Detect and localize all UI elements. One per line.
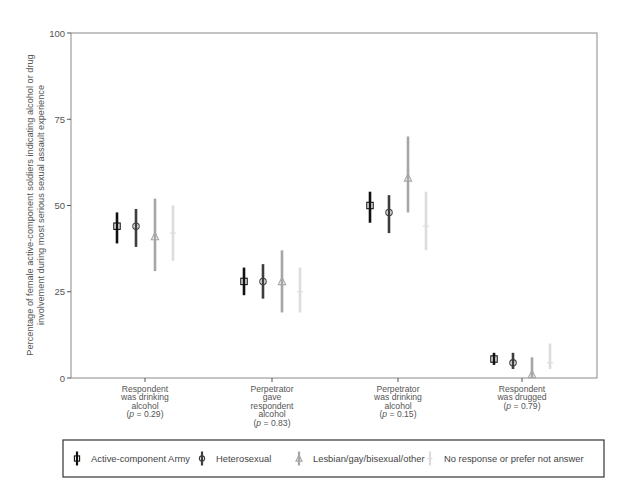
data-point	[528, 357, 535, 378]
y-tick-label: 75	[54, 114, 65, 125]
x-axis: Respondentwas drinkingalcohol(p = 0.29)P…	[120, 378, 547, 428]
legend-label: Active-component Army	[91, 453, 190, 464]
data-point	[278, 250, 285, 312]
data-point	[114, 212, 120, 243]
legend-items: Active-component ArmyHeterosexualLesbian…	[74, 452, 583, 466]
data-point	[133, 209, 139, 247]
data-point	[367, 192, 373, 223]
series-0	[114, 192, 497, 365]
y-tick-label: 50	[54, 200, 65, 211]
y-tick-label: 0	[60, 373, 65, 384]
data-point	[404, 137, 411, 213]
legend-item: Lesbian/gay/bisexual/other	[296, 452, 425, 466]
data-point	[241, 268, 247, 296]
series-layer	[114, 137, 553, 379]
x-category-label-line: (p = 0.79)	[503, 401, 540, 411]
x-category-label-line: (p = 0.15)	[379, 409, 416, 419]
x-category-label-line: (p = 0.29)	[126, 409, 163, 419]
legend-label: Heterosexual	[216, 453, 271, 464]
x-category-label: Perpetratorwas drinkingalcohol(p = 0.15)	[373, 384, 422, 419]
legend-label: No response or prefer not answer	[444, 453, 584, 464]
y-axis-title-line-1: Percentage of female active-component so…	[25, 54, 35, 355]
plot-area	[71, 33, 597, 378]
y-tick-label: 100	[49, 28, 65, 39]
series-1	[133, 195, 516, 369]
x-category-label: Perpetratorgaverespondentalcohol(p = 0.8…	[250, 384, 294, 428]
y-tick-label: 25	[54, 286, 65, 297]
chart: Percentage of female active-component so…	[0, 0, 629, 502]
data-point	[151, 199, 158, 271]
data-point	[260, 264, 266, 299]
data-point	[423, 192, 429, 251]
data-point	[510, 353, 516, 369]
legend-label: Lesbian/gay/bisexual/other	[313, 453, 425, 464]
x-category-label: Respondentwas drugged(p = 0.79)	[496, 384, 546, 411]
legend-item: No response or prefer not answer	[427, 452, 583, 466]
y-axis: 0255075100	[49, 28, 71, 384]
data-point	[297, 268, 303, 313]
data-point	[547, 344, 553, 370]
legend-item: Active-component Army	[74, 452, 190, 466]
data-point	[491, 353, 497, 365]
chart-svg: Percentage of female active-component so…	[0, 0, 629, 502]
data-point	[170, 206, 176, 261]
y-axis-title: Percentage of female active-component so…	[25, 54, 46, 355]
series-2	[151, 137, 535, 379]
data-point	[386, 195, 392, 233]
x-category-label: Respondentwas drinkingalcohol(p = 0.29)	[120, 384, 169, 419]
series-3	[170, 192, 553, 369]
legend: Active-component ArmyHeterosexualLesbian…	[63, 440, 604, 477]
x-category-label-line: (p = 0.83)	[253, 418, 290, 428]
y-axis-title-line-2: involvement during most serious sexual a…	[36, 85, 46, 325]
